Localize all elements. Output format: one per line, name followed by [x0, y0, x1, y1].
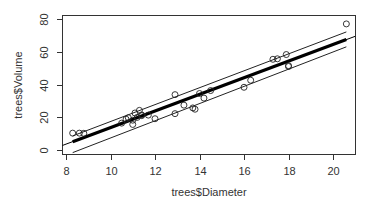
y-tick-label: 20 [38, 111, 50, 123]
x-tick-label: 16 [238, 165, 250, 177]
x-axis-title: trees$Diameter [171, 186, 247, 198]
data-point [248, 77, 254, 83]
y-tick-label: 0 [38, 147, 50, 153]
x-tick-label: 20 [327, 165, 339, 177]
upper-band-line [73, 32, 347, 136]
y-tick-label: 40 [38, 79, 50, 91]
fitted-line [73, 40, 347, 142]
data-point [343, 21, 349, 27]
y-axis: 020406080 [38, 13, 63, 153]
x-axis: 8101214161820 [63, 155, 339, 178]
data-point [181, 102, 187, 108]
x-tick-label: 14 [194, 165, 206, 177]
x-tick-label: 10 [105, 165, 117, 177]
y-tick-label: 80 [38, 13, 50, 25]
data-point [201, 95, 207, 101]
data-series [62, 21, 356, 153]
x-tick-label: 18 [283, 165, 295, 177]
y-axis-title: trees$Volume [12, 51, 24, 118]
data-point [70, 130, 76, 136]
x-tick-label: 12 [149, 165, 161, 177]
scatter-chart: 8101214161820 020406080 trees$Diameter t… [0, 0, 371, 207]
y-tick-label: 60 [38, 46, 50, 58]
x-tick-label: 8 [63, 165, 69, 177]
lower-band-line [73, 47, 347, 153]
plot-box [63, 16, 356, 155]
